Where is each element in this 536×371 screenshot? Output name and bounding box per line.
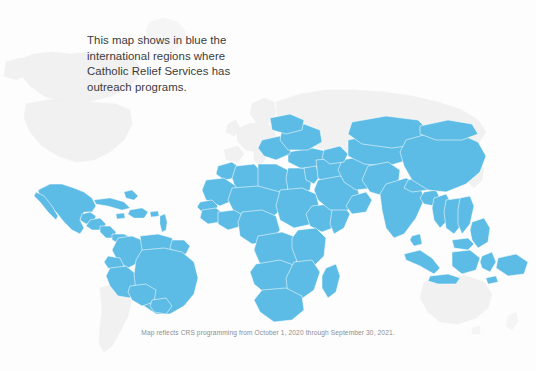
region-bahamas (124, 190, 138, 200)
world-map (0, 0, 536, 371)
region-sumatra (404, 250, 440, 274)
world-map-svg (0, 0, 536, 371)
region-malaysia (452, 238, 474, 250)
region-new-zealand (506, 312, 518, 330)
region-jamaica (116, 213, 125, 219)
region-timor (486, 276, 498, 284)
region-madagascar (322, 264, 340, 298)
region-sulawesi (480, 252, 496, 272)
region-borneo (452, 250, 480, 274)
map-page: This map shows in blue the international… (0, 0, 536, 371)
region-cuba (94, 198, 130, 210)
region-south-africa-botswana (254, 288, 304, 322)
region-sri-lanka (410, 234, 422, 246)
region-united-states (24, 100, 132, 162)
map-footnote: Map reflects CRS programming from Octobe… (0, 329, 536, 336)
region-lesser-antilles (160, 214, 167, 232)
map-legend-description: This map shows in blue the international… (87, 33, 262, 96)
region-hispaniola (128, 208, 148, 218)
region-puerto-rico (150, 211, 159, 217)
region-iberia (224, 146, 244, 162)
region-papua (496, 254, 528, 276)
region-java (428, 274, 460, 284)
